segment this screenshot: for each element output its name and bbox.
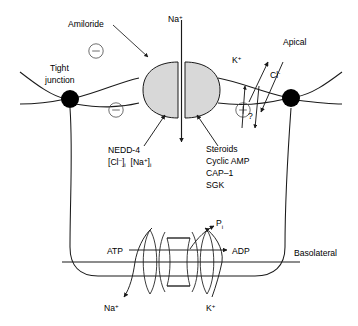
basal-potassium-label: K+ bbox=[206, 302, 216, 313]
negative-sign-nedd4 bbox=[109, 103, 123, 117]
activator-item-2: CAP–1 bbox=[206, 168, 233, 178]
apical-membrane-right bbox=[218, 72, 342, 104]
negative-sign-amiloride bbox=[89, 44, 103, 58]
atp-label: ATP bbox=[107, 246, 123, 256]
nedd4-label: NEDD-4 bbox=[108, 145, 140, 155]
tight-junction-right-icon bbox=[282, 89, 300, 107]
phosphate-label: Pi bbox=[216, 218, 223, 230]
apical-potassium-label: K+ bbox=[232, 54, 242, 65]
unknown-pathway-arrow-down bbox=[255, 86, 259, 128]
basolateral-region-label: Basolateral bbox=[294, 248, 337, 258]
activator-item-0: Steroids bbox=[206, 144, 238, 154]
adp-label: ADP bbox=[232, 246, 250, 256]
basal-sodium-label: Na+ bbox=[104, 302, 119, 313]
unknown-pathway-question-mark: ? bbox=[248, 111, 253, 121]
cell-transport-diagram: Na+ Apical Basolateral Tight junction Am… bbox=[0, 0, 358, 326]
apical-chloride-label: Cl- bbox=[270, 69, 280, 80]
tight-junction-label-line1: Tight bbox=[50, 63, 69, 73]
tight-junction-left-icon bbox=[61, 90, 79, 108]
activators-stimulation-arrow bbox=[197, 115, 218, 146]
intracellular-ions-label: [Cl–]i [Na+]i bbox=[108, 156, 151, 169]
activator-item-1: Cyclic AMP bbox=[206, 156, 250, 166]
amiloride-inhibition-arrow bbox=[113, 25, 148, 57]
apical-membrane-left bbox=[20, 72, 139, 107]
activator-item-3: SGK bbox=[206, 180, 224, 190]
nedd4-inhibition-arrow bbox=[144, 115, 165, 146]
amiloride-label: Amiloride bbox=[68, 19, 104, 29]
apical-sodium-label: Na+ bbox=[168, 13, 183, 24]
apical-region-label: Apical bbox=[283, 37, 306, 47]
tight-junction-label-line2: junction bbox=[44, 75, 75, 85]
diagram-canvas: Na+ Apical Basolateral Tight junction Am… bbox=[0, 0, 358, 326]
unknown-pathway-arrow-up bbox=[242, 86, 245, 128]
